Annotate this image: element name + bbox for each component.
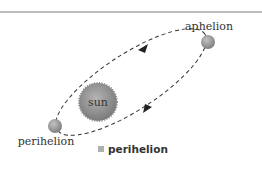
aphelion-label: aphelion xyxy=(185,20,233,33)
perihelion-planet-icon xyxy=(48,119,62,133)
orbit-arrow-upper xyxy=(138,44,148,53)
sun-label: sun xyxy=(88,96,108,109)
caption-swatch-icon xyxy=(98,146,104,152)
aphelion-planet-icon xyxy=(201,35,215,49)
sun-icon: sun xyxy=(79,83,117,121)
orbit-arrow-lower xyxy=(143,104,152,113)
perihelion-label: perihelion xyxy=(18,135,75,148)
caption: perihelion xyxy=(98,143,168,155)
caption-text: perihelion xyxy=(108,143,168,155)
